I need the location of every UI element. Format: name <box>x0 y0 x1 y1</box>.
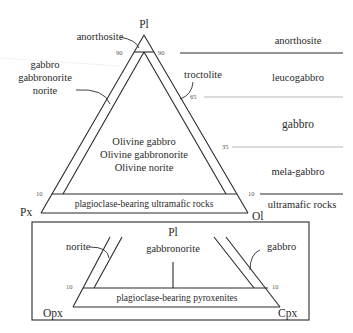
scale-gabbro: gabbro <box>282 118 314 131</box>
apex-label-opx: Opx <box>43 307 63 320</box>
scale-leucogabbro: leucogabbro <box>272 72 324 83</box>
field-plag-pyroxenites: plagioclase-bearing pyroxenites <box>116 293 237 303</box>
tick-left-90: 90 <box>116 49 123 56</box>
apex-label-px: Px <box>20 206 32 218</box>
tick-65: 65 <box>190 93 197 100</box>
field-plag-ultramafic: plagioclase-bearing ultramafic rocks <box>75 199 214 209</box>
field-gabbronorite: gabbronorite <box>18 72 72 83</box>
scale-mela-gabbro: mela-gabbro <box>271 166 324 177</box>
apex-label-pl: Pl <box>139 18 149 30</box>
field-norite-bottom: norite <box>66 241 91 252</box>
field-anorthosite: anorthosite <box>77 31 124 42</box>
plutonic-classification-diagram: Pl Px Ol 90 90 10 10 65 35 anorthosite g… <box>0 0 353 333</box>
tick-35: 35 <box>222 143 229 150</box>
field-olivine-norite: Olivine norite <box>115 162 174 173</box>
field-troctolite: troctolite <box>184 69 222 80</box>
tick-right-10-bottom: 10 <box>272 283 279 290</box>
field-norite: norite <box>33 85 58 96</box>
leader-gabbro <box>250 250 260 270</box>
field-gabbro: gabbro <box>30 59 59 70</box>
apex-label-pl-bottom: Pl <box>168 226 178 238</box>
tick-right-90: 90 <box>158 49 165 56</box>
field-olivine-gabbronorite: Olivine gabbronorite <box>100 149 188 160</box>
apex-label-ol: Ol <box>252 210 264 222</box>
scale-ultramafic: ultramafic rocks <box>268 199 337 210</box>
tick-right-10: 10 <box>248 190 255 197</box>
color-index-scale: anorthosite leucogabbro gabbro mela-gabb… <box>180 35 343 210</box>
field-olivine-gabbro: Olivine gabbro <box>112 136 175 147</box>
tick-left-10-bottom: 10 <box>66 283 73 290</box>
apex-label-cpx: Cpx <box>278 307 297 320</box>
field-gabbronorite-bottom: gabbronorite <box>146 243 200 254</box>
pl-px-ol-triangle <box>41 35 248 213</box>
scale-anorthosite: anorthosite <box>275 35 322 46</box>
field-gabbro-bottom: gabbro <box>267 241 296 252</box>
tick-left-10: 10 <box>36 190 43 197</box>
